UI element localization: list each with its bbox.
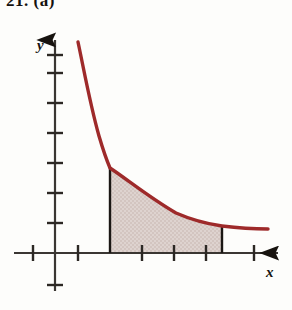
plot-area: y x	[0, 0, 292, 310]
y-axis-label: y	[35, 37, 44, 53]
x-axis-label: x	[265, 264, 274, 280]
function-curve	[78, 42, 268, 229]
calculus-figure: 21. (a)	[0, 0, 292, 310]
